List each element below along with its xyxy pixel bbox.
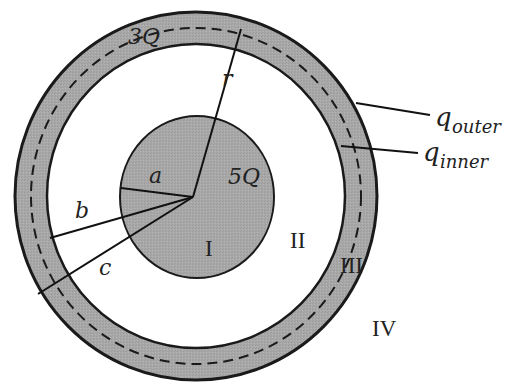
radius-a-label: a	[149, 163, 162, 188]
svg-text:inner: inner	[440, 151, 490, 172]
region-IV-label: IV	[372, 316, 397, 341]
q-outer-label: q outer	[435, 102, 502, 137]
radius-b-label: b	[75, 198, 89, 223]
region-II-label: II	[290, 228, 305, 253]
svg-text:q: q	[435, 102, 452, 132]
region-III-label: III	[340, 253, 363, 278]
region-I-label: I	[205, 236, 213, 261]
diagram-canvas: 3Q 5Q r a b c q outer q inner I II III I…	[0, 0, 519, 384]
radius-c-label: c	[99, 255, 111, 280]
radius-r-label: r	[222, 66, 234, 91]
shell-charge-label: 3Q	[128, 24, 160, 49]
svg-text:q: q	[423, 137, 440, 167]
sphere-charge-label: 5Q	[228, 164, 260, 189]
q-inner-label: q inner	[423, 137, 490, 172]
sphere-shell-diagram: 3Q 5Q r a b c q outer q inner I II III I…	[0, 0, 519, 384]
inner-sphere	[120, 116, 274, 278]
q-outer-leader	[356, 103, 430, 115]
svg-text:outer: outer	[452, 116, 502, 137]
